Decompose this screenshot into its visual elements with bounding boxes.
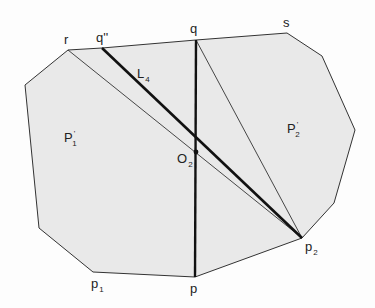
label-P2-prime: P'2	[287, 122, 300, 135]
label-L4: L4	[137, 67, 150, 80]
label-p2: p2	[305, 240, 318, 253]
label-r: r	[64, 33, 68, 46]
label-s: s	[283, 16, 290, 29]
label-p: p	[190, 282, 197, 295]
label-O2: O2	[177, 152, 193, 165]
segment-q-p	[195, 40, 196, 277]
label-q: q	[190, 22, 197, 35]
label-q-double-prime: q''	[96, 31, 108, 44]
point-O2	[194, 150, 199, 155]
label-P1-prime: P'1	[64, 131, 77, 144]
diagram-canvas: r q'' q s L4 P'1 P'2 O2 p p1 p2	[0, 0, 375, 308]
label-p1: p1	[91, 277, 104, 290]
